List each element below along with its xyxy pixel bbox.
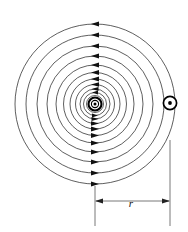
field-arrow-top-13: [91, 21, 99, 26]
field-arrow-bottom-9: [91, 140, 99, 145]
wire-symbol: [89, 98, 102, 111]
field-arrow-top-10: [91, 53, 99, 58]
field-arrow-top-5: [92, 87, 99, 91]
field-arrow-top-9: [91, 62, 99, 67]
dimension-arrow-left: [95, 199, 103, 204]
field-arrow-top-11: [91, 43, 99, 48]
field-arrow-bottom-12: [91, 170, 99, 175]
radius-label: r: [129, 197, 134, 209]
magnetic-field-diagram: r: [0, 0, 188, 232]
field-arrow-top-12: [91, 32, 99, 37]
field-arrow-top-7: [91, 77, 99, 82]
dimension-arrow-right: [162, 199, 170, 204]
field-arrow-bottom-11: [91, 159, 99, 164]
field-arrow-top-4: [92, 91, 98, 95]
field-arrow-bottom-5: [92, 117, 99, 121]
field-arrow-bottom-4: [92, 114, 98, 118]
field-arrow-bottom-6: [91, 121, 99, 126]
field-arrow-top-8: [91, 70, 99, 75]
field-arrow-top-6: [91, 82, 99, 87]
diagram-canvas: r: [0, 0, 188, 232]
field-point-symbol: [163, 96, 176, 109]
field-arrow-bottom-10: [91, 149, 99, 154]
field-arrow-bottom-7: [91, 127, 99, 132]
field-point-dot-icon: [168, 101, 172, 105]
field-arrow-bottom-13: [91, 181, 99, 186]
field-arrow-bottom-8: [91, 133, 99, 138]
wire-center-dot-icon: [94, 103, 97, 106]
